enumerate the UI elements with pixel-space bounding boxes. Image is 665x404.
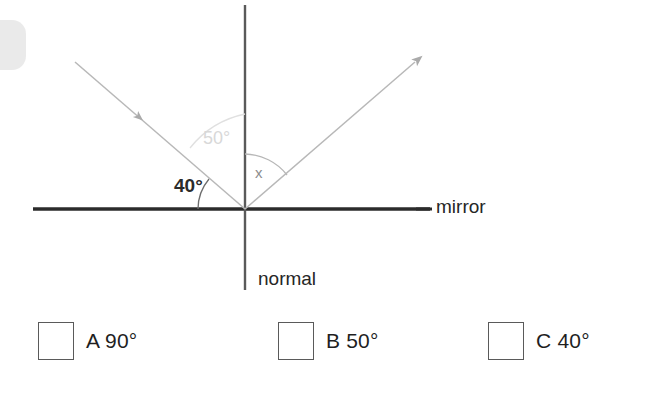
checkbox-option-a[interactable] — [38, 322, 74, 360]
answer-options: A 90° B 50° C 40° — [0, 322, 665, 404]
angle-x-label: x — [255, 164, 263, 181]
option-b[interactable]: B 50° — [278, 322, 379, 360]
reflected-ray-line — [245, 62, 415, 209]
reflection-diagram — [0, 0, 665, 310]
checkbox-option-c[interactable] — [488, 322, 524, 360]
mirror-label: mirror — [436, 196, 486, 218]
question-page: mirror normal 40° 50° x A 90° B 50° C 40… — [0, 0, 665, 404]
angle-40-label: 40° — [174, 175, 203, 197]
angle-arc-x — [245, 154, 287, 175]
option-a-label: A 90° — [86, 329, 137, 353]
option-c-label: C 40° — [536, 329, 590, 353]
option-a[interactable]: A 90° — [38, 322, 137, 360]
angle-50-label: 50° — [203, 128, 230, 149]
checkbox-option-b[interactable] — [278, 322, 314, 360]
option-b-label: B 50° — [326, 329, 379, 353]
normal-label: normal — [258, 268, 316, 290]
option-c[interactable]: C 40° — [488, 322, 590, 360]
